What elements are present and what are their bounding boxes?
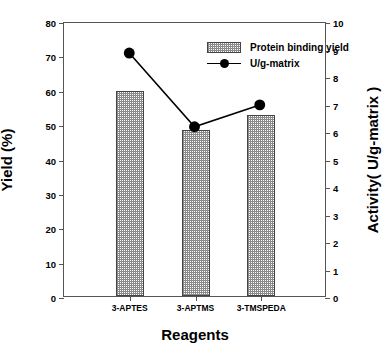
- hatched-swatch-icon: [207, 42, 241, 53]
- y-tick-right: [325, 243, 330, 244]
- x-tick: [196, 296, 197, 301]
- line-marker: [124, 48, 135, 59]
- y-tick-right: [325, 188, 330, 189]
- legend-label-u-g-matrix: U/g-matrix: [250, 58, 299, 69]
- x-tick-label: 3-APTMS: [177, 303, 214, 313]
- x-tick-label: 3-APTES: [112, 303, 148, 313]
- y-tick-right: [325, 271, 330, 272]
- y-tick-label-right: 5: [333, 155, 338, 166]
- chart-legend: Protein binding yield U/g-matrix: [207, 39, 349, 71]
- y-tick-right: [325, 133, 330, 134]
- chart-figure: Yield (%) Activity( U/g-matrix ) Reagent…: [0, 0, 387, 358]
- legend-item-protein-binding-yield: Protein binding yield: [207, 39, 349, 55]
- x-tick-label: 3-TMSPEDA: [237, 303, 286, 313]
- y-tick-label-right: 8: [333, 73, 338, 84]
- legend-label-protein-binding-yield: Protein binding yield: [250, 42, 349, 53]
- y-tick-left: [59, 23, 64, 24]
- line-marker: [254, 99, 265, 110]
- filled-circle-marker-icon: [220, 59, 229, 68]
- bar: [182, 130, 210, 296]
- y-tick-right: [325, 298, 330, 299]
- y-tick-left: [59, 298, 64, 299]
- y-tick-label-left: 70: [45, 52, 56, 63]
- bar: [116, 91, 144, 296]
- y-tick-right: [325, 78, 330, 79]
- y-tick-label-left: 30: [45, 189, 56, 200]
- y-axis-left-title: Yield (%): [0, 129, 15, 192]
- y-tick-label-left: 80: [45, 18, 56, 29]
- y-tick-label-right: 6: [333, 128, 338, 139]
- y-tick-left: [59, 161, 64, 162]
- y-tick-label-left: 50: [45, 121, 56, 132]
- y-tick-right: [325, 23, 330, 24]
- y-tick-left: [59, 92, 64, 93]
- y-tick-label-right: 2: [333, 238, 338, 249]
- y-tick-label-right: 0: [333, 293, 338, 304]
- y-tick-left: [59, 195, 64, 196]
- y-tick-label-left: 60: [45, 86, 56, 97]
- y-tick-right: [325, 216, 330, 217]
- y-tick-label-left: 20: [45, 224, 56, 235]
- legend-item-u-g-matrix: U/g-matrix: [207, 55, 349, 71]
- x-tick: [130, 296, 131, 301]
- plot-area: 01020304050607080 012345678910 3-APTES3-…: [63, 22, 326, 297]
- x-axis-title: Reagents: [161, 326, 229, 343]
- y-tick-right: [325, 161, 330, 162]
- y-axis-right-title: Activity( U/g-matrix ): [364, 87, 381, 234]
- y-tick-left: [59, 57, 64, 58]
- y-tick-label-left: 0: [51, 293, 56, 304]
- bar: [247, 115, 275, 297]
- y-tick-label-right: 7: [333, 100, 338, 111]
- y-tick-label-right: 10: [333, 18, 344, 29]
- y-tick-left: [59, 264, 64, 265]
- y-tick-label-right: 3: [333, 210, 338, 221]
- y-tick-left: [59, 229, 64, 230]
- y-tick-right: [325, 106, 330, 107]
- y-tick-label-left: 10: [45, 258, 56, 269]
- y-tick-label-left: 40: [45, 155, 56, 166]
- legend-swatch-line: [207, 58, 241, 69]
- x-tick: [261, 296, 262, 301]
- legend-swatch-bar: [207, 42, 241, 53]
- y-tick-left: [59, 126, 64, 127]
- y-tick-label-right: 4: [333, 183, 338, 194]
- y-tick-label-right: 1: [333, 265, 338, 276]
